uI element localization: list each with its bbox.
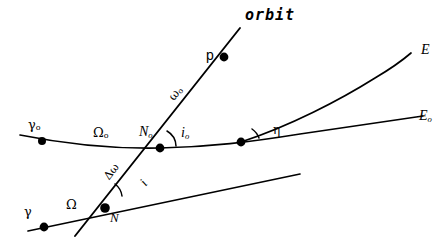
orbital-elements-diagram: orbit p ωo γo Ωo No io η E Eo Δω i Ω N γ	[0, 0, 444, 248]
equator-label: E	[421, 43, 430, 57]
vernal-equinox-label: γ	[24, 205, 32, 218]
i-o-sub: o	[185, 131, 189, 141]
E-o-base: E	[419, 108, 428, 123]
E-base: E	[421, 42, 430, 57]
Omega-base: Ω	[66, 197, 77, 212]
point-vernal-equinox	[40, 223, 49, 232]
orbit-label: orbit	[245, 8, 295, 23]
eta-base: η	[273, 123, 280, 137]
equator-initial-label: Eo	[419, 109, 432, 123]
point-node	[100, 203, 110, 213]
gamma-o-sub: o	[36, 123, 41, 132]
vernal-equinox-initial-label: γo	[28, 118, 41, 133]
point-equator-intersection	[237, 138, 246, 147]
point-vernal-equinox-initial	[38, 137, 46, 145]
gamma-base: γ	[24, 204, 32, 219]
Omega-o-sub: o	[104, 131, 109, 140]
inclination-initial-label: io	[181, 126, 189, 140]
point-node-initial	[156, 144, 165, 153]
N-o-base: N	[139, 124, 148, 139]
raan-label: Ω	[66, 198, 77, 211]
Omega-o-base: Ω	[93, 125, 104, 140]
inclination-angle-arc	[115, 184, 122, 196]
inclination-initial-angle-arc	[167, 131, 176, 146]
raan-initial-label: Ωo	[93, 126, 109, 141]
N-o-sub: o	[148, 130, 152, 140]
node-label: N	[110, 211, 119, 224]
eta-label: η	[273, 124, 280, 136]
perigee-label: p	[206, 48, 214, 62]
node-initial-label: No	[139, 125, 153, 139]
point-perigee	[220, 53, 229, 62]
gamma-o-base: γ	[28, 117, 36, 132]
N-base: N	[110, 210, 119, 225]
equator-curve	[241, 53, 411, 142]
equator-initial-curve	[20, 116, 423, 148]
E-o-sub: o	[428, 114, 432, 124]
